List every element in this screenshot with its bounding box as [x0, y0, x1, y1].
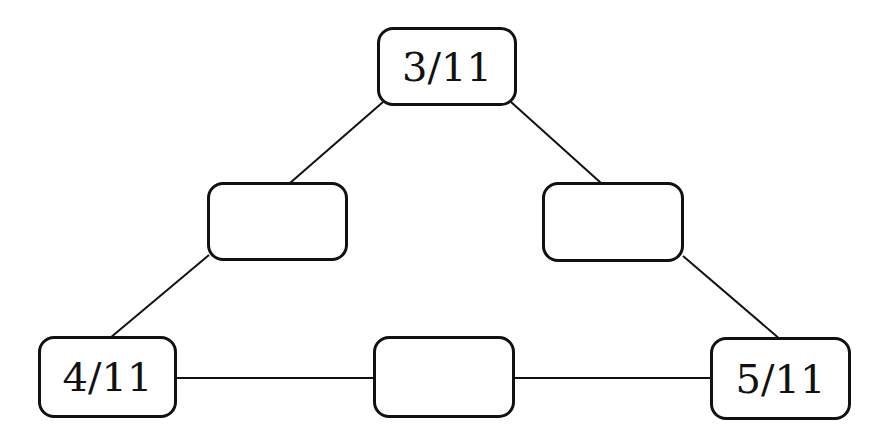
fraction-triangle-diagram: 3/11 4/11 5/11	[0, 0, 885, 443]
node-bottom-left-label: 4/11	[63, 357, 153, 397]
node-top-label: 3/11	[402, 47, 492, 87]
edge-top-to-mid-left	[290, 102, 383, 183]
edge-mid-right-to-bottom-right	[683, 256, 781, 340]
node-top: 3/11	[377, 27, 517, 106]
node-bottom-right-label: 5/11	[736, 359, 826, 399]
node-bottom-right: 5/11	[710, 337, 851, 420]
node-mid-left-blank[interactable]	[207, 182, 348, 261]
node-bottom-mid-blank[interactable]	[373, 336, 515, 418]
edge-top-to-mid-right	[511, 102, 601, 183]
node-bottom-left: 4/11	[38, 336, 177, 418]
edge-mid-left-to-bottom-left	[110, 255, 209, 338]
node-mid-right-blank[interactable]	[542, 182, 684, 262]
